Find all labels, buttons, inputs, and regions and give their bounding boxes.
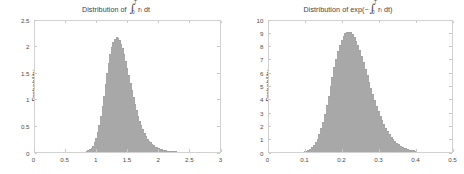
- x-tick-mark-left: [34, 21, 35, 24]
- y-tick-mark-right: [269, 59, 272, 60]
- integral-lower-limit-left: 0: [132, 11, 135, 16]
- y-tick-label-right: 2: [244, 122, 264, 129]
- x-tick-label-right: 0.2: [337, 156, 346, 163]
- y-tick-mark-left: [35, 153, 38, 154]
- histogram-bar: [175, 151, 177, 152]
- x-tick-mark-left: [127, 21, 128, 24]
- x-tick-label-right: 0.1: [300, 156, 309, 163]
- x-tick-mark-right: [379, 21, 380, 24]
- y-tick-label-right: 1: [244, 136, 264, 143]
- y-tick-label-left: 2: [10, 43, 30, 50]
- x-tick-label-right: 0: [266, 156, 269, 163]
- plot-title-right-prefix: Distribution of exp(−: [304, 5, 369, 14]
- y-tick-mark-right: [269, 86, 272, 87]
- y-tick-mark-left: [217, 46, 220, 47]
- panel-right-distribution-discount: Distribution of exp(−∫T0 rt dt) Probabil…: [232, 0, 464, 174]
- x-tick-mark-left: [189, 149, 190, 152]
- y-tick-mark-right: [269, 99, 272, 100]
- y-tick-mark-left: [35, 46, 38, 47]
- x-tick-label-right: 0.5: [448, 156, 457, 163]
- y-tick-mark-left: [217, 20, 220, 21]
- integral-upper-limit-right: T: [374, 1, 377, 6]
- y-tick-label-right: 6: [244, 69, 264, 76]
- x-tick-mark-left: [189, 21, 190, 24]
- y-tick-mark-left: [35, 73, 38, 74]
- x-tick-mark-right: [305, 21, 306, 24]
- integral-upper-limit-left: T: [134, 1, 137, 6]
- x-tick-mark-left: [96, 149, 97, 152]
- x-tick-mark-right: [379, 149, 380, 152]
- x-tick-label-left: 1.5: [123, 156, 132, 163]
- integral-lower-limit-right: 0: [372, 11, 375, 16]
- y-tick-label-right: 7: [244, 56, 264, 63]
- x-tick-label-right: 0.4: [411, 156, 420, 163]
- plot-title-right-suffix: dt): [382, 5, 393, 14]
- y-tick-label-right: 9: [244, 29, 264, 36]
- y-tick-mark-right: [449, 33, 452, 34]
- y-tick-mark-right: [269, 126, 272, 127]
- panel-left-distribution-integral: Distribution of ∫T0 rt dt Probability 00…: [0, 0, 232, 174]
- x-tick-mark-right: [416, 149, 417, 152]
- x-tick-mark-left: [96, 21, 97, 24]
- histogram-bars-right: [269, 21, 452, 152]
- y-tick-label-right: 4: [244, 96, 264, 103]
- y-tick-mark-left: [35, 126, 38, 127]
- y-tick-label-right: 0: [244, 149, 264, 156]
- y-tick-label-right: 3: [244, 109, 264, 116]
- y-tick-mark-right: [449, 139, 452, 140]
- plot-title-left-suffix: dt: [142, 5, 150, 14]
- y-tick-mark-right: [269, 73, 272, 74]
- y-tick-label-right: 8: [244, 43, 264, 50]
- y-tick-mark-right: [449, 73, 452, 74]
- x-tick-mark-left: [127, 149, 128, 152]
- plot-title-left-prefix: Distribution of: [82, 5, 129, 14]
- y-tick-mark-right: [449, 99, 452, 100]
- x-tick-mark-right: [268, 149, 269, 152]
- y-tick-mark-right: [269, 33, 272, 34]
- x-tick-label-left: 3: [219, 156, 222, 163]
- y-tick-label-right: 5: [244, 83, 264, 90]
- x-tick-mark-left: [158, 21, 159, 24]
- x-tick-label-left: 1: [94, 156, 97, 163]
- plot-area-right: [268, 20, 453, 153]
- y-tick-mark-right: [449, 20, 452, 21]
- y-tick-mark-left: [217, 126, 220, 127]
- y-tick-label-left: 1: [10, 96, 30, 103]
- y-tick-label-right: 10: [244, 16, 264, 23]
- integral-symbol-right: ∫T0: [370, 3, 376, 14]
- figure-canvas: Distribution of ∫T0 rt dt Probability 00…: [0, 0, 464, 174]
- x-tick-mark-right: [416, 21, 417, 24]
- plot-title-left: Distribution of ∫T0 rt dt: [0, 3, 232, 14]
- y-tick-mark-right: [449, 59, 452, 60]
- x-tick-mark-right: [342, 149, 343, 152]
- y-tick-mark-right: [449, 46, 452, 47]
- y-tick-label-left: 1.5: [10, 69, 30, 76]
- y-tick-label-left: 2.5: [10, 16, 30, 23]
- x-tick-label-left: 0.5: [60, 156, 69, 163]
- y-tick-mark-right: [269, 113, 272, 114]
- integral-symbol-left: ∫T0: [130, 3, 136, 14]
- y-tick-mark-right: [449, 153, 452, 154]
- x-tick-label-right: 0.3: [374, 156, 383, 163]
- x-tick-label-left: 2: [156, 156, 159, 163]
- x-tick-mark-right: [453, 21, 454, 24]
- x-tick-mark-right: [305, 149, 306, 152]
- y-tick-label-left: 0: [10, 149, 30, 156]
- y-tick-mark-right: [449, 126, 452, 127]
- y-tick-mark-left: [217, 99, 220, 100]
- x-tick-mark-left: [158, 149, 159, 152]
- x-tick-mark-left: [65, 149, 66, 152]
- x-tick-mark-left: [221, 21, 222, 24]
- y-tick-mark-left: [35, 20, 38, 21]
- x-tick-mark-right: [268, 21, 269, 24]
- y-tick-mark-right: [269, 20, 272, 21]
- histogram-bars-left: [35, 21, 220, 152]
- x-tick-mark-left: [34, 149, 35, 152]
- x-tick-mark-right: [453, 149, 454, 152]
- y-tick-mark-right: [449, 86, 452, 87]
- y-tick-mark-left: [217, 153, 220, 154]
- x-tick-mark-right: [342, 21, 343, 24]
- y-tick-mark-right: [269, 153, 272, 154]
- plot-area-left: [34, 20, 221, 153]
- x-tick-label-left: 0: [32, 156, 35, 163]
